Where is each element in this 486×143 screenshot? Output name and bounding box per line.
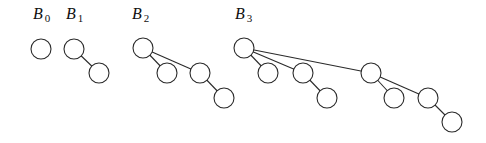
edges-layer <box>74 48 452 122</box>
tree-b1-label: B1 <box>66 5 83 24</box>
tree-b0-label: B0 <box>33 5 51 24</box>
tree-b2-node <box>214 88 234 108</box>
tree-b2-label: B2 <box>132 5 149 24</box>
tree-b3-node <box>442 112 462 132</box>
tree-b0-root-node <box>31 39 51 59</box>
tree-b2-node <box>157 63 177 83</box>
binomial-trees-diagram: B0B1B2B3 <box>0 0 486 143</box>
tree-b3-label-subscript: 3 <box>247 12 253 24</box>
tree-b3-node <box>361 63 381 83</box>
tree-b1-node <box>89 63 109 83</box>
tree-b2-node <box>190 63 210 83</box>
tree-b1-label-subscript: 1 <box>78 12 84 24</box>
tree-b0-label-subscript: 0 <box>45 12 51 24</box>
tree-b2-root-node <box>133 38 153 58</box>
tree-b2-label-subscript: 2 <box>144 12 150 24</box>
tree-b3-node <box>293 63 313 83</box>
tree-b3-label: B3 <box>235 5 253 24</box>
tree-b3-node <box>317 88 337 108</box>
tree-b3-node <box>384 88 404 108</box>
tree-b3-root-node <box>234 38 254 58</box>
tree-b3-node <box>418 88 438 108</box>
tree-b3-node <box>258 63 278 83</box>
tree-b1-root-node <box>64 39 84 59</box>
labels-layer: B0B1B2B3 <box>33 5 253 24</box>
